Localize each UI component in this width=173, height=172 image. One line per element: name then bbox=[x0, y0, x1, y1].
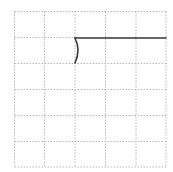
dotted-grid bbox=[15, 12, 167, 168]
drawn-path bbox=[75, 38, 166, 63]
grid-diagram bbox=[0, 0, 173, 172]
